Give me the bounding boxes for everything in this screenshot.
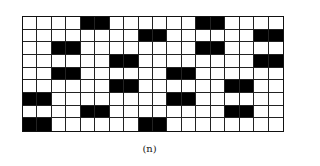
grid-cell-empty [182,30,196,43]
grid-cell-empty [110,93,124,106]
grid-cell-empty [225,55,239,68]
grid-cell-filled [254,55,268,68]
grid-cell-filled [182,68,196,81]
grid-cell-empty [110,118,124,131]
grid-cell-empty [124,68,138,81]
grid-cell-empty [153,80,167,93]
grid-cell-empty [269,68,283,81]
grid-cell-empty [196,55,210,68]
grid-cell-filled [269,55,283,68]
grid-cell-empty [167,30,181,43]
grid-cell-empty [153,68,167,81]
grid-cell-empty [81,55,95,68]
grid-cell-filled [225,106,239,119]
grid-cell-empty [225,30,239,43]
grid-cell-empty [81,30,95,43]
grid-cell-filled [124,80,138,93]
grid-cell-empty [269,80,283,93]
grid-cell-empty [139,68,153,81]
grid-cell-empty [37,55,51,68]
grid-cell-empty [225,17,239,30]
grid-cell-empty [124,17,138,30]
grid-cell-empty [211,118,225,131]
grid-cell-empty [182,80,196,93]
grid-cell-empty [52,118,66,131]
grid-cell-filled [37,93,51,106]
grid-cell-filled [37,118,51,131]
grid-cell-empty [23,68,37,81]
grid-cell-empty [240,42,254,55]
grid-cell-empty [196,68,210,81]
grid-cell-empty [167,17,181,30]
grid-cell-empty [95,80,109,93]
grid-cell-empty [182,118,196,131]
grid-cell-empty [254,93,268,106]
grid-cell-empty [211,80,225,93]
grid-cell-filled [153,30,167,43]
grid-cell-empty [95,93,109,106]
grid-cell-empty [225,93,239,106]
grid-cell-filled [139,118,153,131]
grid-cell-empty [66,80,80,93]
grid-cell-empty [81,68,95,81]
grid-cell-empty [23,30,37,43]
grid-cell-filled [182,93,196,106]
grid-cell-empty [167,118,181,131]
grid-cell-empty [269,106,283,119]
grid-cell-empty [66,55,80,68]
grid-cell-empty [167,80,181,93]
grid-cell-empty [37,42,51,55]
grid-cell-empty [240,118,254,131]
grid-cell-empty [23,17,37,30]
grid-cell-empty [182,17,196,30]
grid-cell-filled [52,42,66,55]
grid-cell-filled [225,80,239,93]
grid-cell-empty [225,42,239,55]
grid-cell-empty [23,42,37,55]
grid-cell-empty [153,42,167,55]
grid-cell-empty [240,30,254,43]
grid-cell-empty [240,17,254,30]
grid-cell-empty [139,55,153,68]
grid-cell-empty [37,17,51,30]
grid-cell-filled [269,30,283,43]
grid-cell-empty [139,42,153,55]
grid-cell-empty [153,17,167,30]
grid-cell-empty [211,30,225,43]
grid-cell-empty [254,106,268,119]
grid-cell-empty [95,68,109,81]
grid-cell-filled [254,30,268,43]
grid-cell-filled [240,80,254,93]
grid-cell-empty [167,55,181,68]
grid-cell-empty [182,106,196,119]
grid-cell-filled [95,17,109,30]
grid-cell-empty [52,30,66,43]
grid-cell-empty [52,106,66,119]
grid-cell-empty [95,30,109,43]
grid-cell-filled [52,68,66,81]
grid-cell-empty [52,55,66,68]
grid-cell-empty [225,118,239,131]
grid-cell-empty [110,42,124,55]
grid-cell-empty [182,55,196,68]
grid-cell-filled [23,93,37,106]
grid-cell-empty [124,30,138,43]
grid-cell-empty [240,55,254,68]
grid-cell-empty [37,80,51,93]
grid-cell-filled [196,17,210,30]
grid-cell-filled [124,55,138,68]
grid-cell-empty [66,30,80,43]
grid-cell-empty [211,106,225,119]
grid-cell-filled [110,55,124,68]
grid-cell-filled [167,93,181,106]
grid-cell-empty [81,118,95,131]
grid-cell-empty [66,118,80,131]
grid-cell-empty [167,106,181,119]
grid-cell-filled [81,106,95,119]
grid-cell-empty [52,17,66,30]
grid-cell-filled [66,42,80,55]
grid-cell-empty [95,118,109,131]
grid-cell-empty [240,93,254,106]
grid-cell-empty [124,93,138,106]
grid-cell-empty [196,106,210,119]
